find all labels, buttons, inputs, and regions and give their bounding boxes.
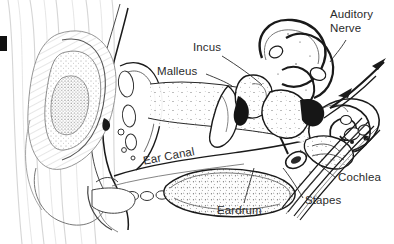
label-malleus: Malleus — [157, 65, 197, 78]
label-auditory-nerve: Auditory Nerve — [330, 8, 373, 35]
label-incus: Incus — [193, 41, 221, 54]
black-edge-mark — [0, 36, 7, 51]
label-eardrum: Eardrum — [217, 204, 262, 217]
label-cochlea: Cochlea — [338, 171, 381, 184]
diagram-artwork — [0, 0, 394, 244]
label-stapes: Stapes — [305, 194, 341, 207]
ear-anatomy-diagram: Auditory Nerve Incus Malleus Ear Canal E… — [0, 0, 394, 244]
